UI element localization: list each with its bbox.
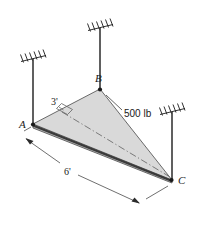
- vertex-node-b: [98, 87, 102, 91]
- dimension-label-6ft: 6': [64, 166, 71, 177]
- dimension-label-3ft: 3': [51, 96, 58, 107]
- figure-container: A B C 3' 6' 500 lb: [0, 0, 206, 225]
- vertex-node-c: [169, 178, 173, 182]
- statics-diagram: A B C 3' 6' 500 lb: [0, 0, 206, 225]
- support-a: [21, 50, 47, 125]
- vertex-label-a: A: [18, 118, 26, 130]
- vertex-label-c: C: [178, 174, 186, 186]
- load-label-500lb: 500 lb: [124, 108, 152, 119]
- vertex-node-a: [31, 122, 35, 126]
- dim-6ft-arrow-end: [132, 198, 141, 204]
- vertex-label-b: B: [95, 72, 102, 84]
